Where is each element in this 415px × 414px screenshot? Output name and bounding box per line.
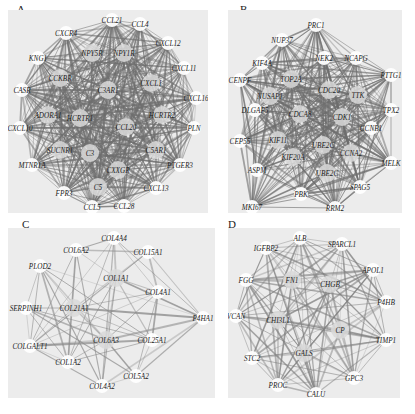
node-label: C5AR1 [146,147,167,155]
node-ttk: TTK [349,86,367,104]
node-label: PBK [293,191,309,199]
node-label: PTGER3 [166,162,193,170]
node-label: COL25A1 [137,337,166,345]
node-label: TOP2A [280,76,302,84]
node-label: CEP55 [230,138,251,146]
edges [236,238,386,394]
node-label: CDCA8 [289,111,312,119]
node-label: CASR [13,87,31,95]
node-fn1: FN1 [283,271,301,289]
node-label: STC2 [244,355,260,363]
node-label: CP [335,327,345,335]
node-label: NPY1R [112,50,135,58]
node-label: CCL21 [102,17,123,25]
node-label: TIMP1 [376,337,396,345]
node-label: CDK1 [333,114,351,122]
node-label: COL1A2 [55,359,81,367]
node-label: PLN [186,125,201,133]
node-label: IGFBP2 [253,245,279,253]
node-label: SPARCL1 [328,241,356,249]
node-label: SPAG5 [350,184,371,192]
node-label: CXCL1 [140,80,162,88]
node-label: COL1A1 [103,275,129,283]
network-panel-d: ALBSPARCL1IGFBP2APOL1FGGFN1CHGBP4HBVCANC… [228,228,400,398]
node-label: NPY5R [80,50,103,58]
node-label: MTNR1A [17,162,46,170]
node-label: PTTG1 [379,72,401,80]
node-label: P4HB [376,299,395,307]
node-label: COL21A1 [59,305,88,313]
node-label: VCAN [228,313,246,321]
node-label: C3 [86,150,95,158]
node-label: SERPINH1 [10,305,43,313]
node-c3: C3 [81,144,99,162]
node-label: CCL20 [116,124,137,132]
node-label: ALB [293,235,307,243]
edge [292,280,316,394]
node-col6a2: COL6A2 [63,243,89,257]
node-label: CXCL13 [143,185,169,193]
node-label: CXCL11 [172,65,197,73]
node-label: CDC20 [318,87,340,95]
node-label: TTK [352,92,366,100]
edges [240,25,391,208]
node-label: MELK [380,160,401,168]
node-label: NUSAP1 [256,93,283,101]
node-label: CENPF [229,77,252,85]
network-graph-c: COL4A4COL6A2COL15A1PLOD2COL1A1COL4A1SERP… [8,228,215,398]
node-label: COL4A2 [89,383,115,391]
node-label: CHGB [320,281,340,289]
edge [102,238,114,386]
node-label: CHI3L1 [266,317,290,325]
node-label: CXCL10 [8,125,33,133]
node-label: P4HA1 [191,315,213,323]
node-col21a1: COL21A1 [59,299,88,317]
node-label: PRC1 [306,22,324,30]
network-graph-d: ALBSPARCL1IGFBP2APOL1FGGFN1CHGBP4HBVCANC… [228,228,400,398]
node-label: PLOD2 [28,263,52,271]
node-label: COL6A3 [93,337,119,345]
node-label: CALU [307,391,326,399]
edge [152,292,158,340]
node-label: COL6A2 [63,247,89,255]
node-label: HCRTR2 [148,112,176,120]
node-label: COLGALT1 [12,343,47,351]
node-cxcl11: CXCL11 [172,61,197,75]
node-gals: GALS [295,344,313,362]
node-label: FPR3 [55,190,73,198]
node-label: NCAPG [343,55,368,63]
node-label: CCL5 [83,204,101,212]
node-col4a4: COL4A4 [101,231,127,245]
node-alb: ALB [293,231,307,245]
node-label: CXCL16 [183,95,208,103]
node-label: CCNB1 [360,125,382,133]
node-col4a1: COL4A1 [145,285,171,299]
edge [136,318,203,376]
network-panel-a: CCL21CCL4CXCR4CXCL12KNG1CXCL11CASRCXCL16… [8,10,208,213]
node-label: MKI67 [241,204,263,212]
node-label: GPC3 [345,375,363,383]
node-label: NEK2 [314,55,333,63]
node-label: CCL28 [114,203,135,211]
node-label: COL4A1 [145,289,171,297]
node-col15a1: COL15A1 [133,245,162,259]
node-label: KNG1 [28,55,47,63]
edge [354,340,386,378]
network-graph-a: CCL21CCL4CXCR4CXCL12KNG1CXCL11CASRCXCL16… [8,10,208,213]
network-panel-b: PRC1NUP37NEK2NCAPGKIF4APTTG1CENPFTOP2ANU… [228,10,402,213]
node-label: CXXGR [106,167,130,175]
node-label: C3AR1 [98,87,119,95]
node-c5: C5 [89,178,107,196]
node-label: C5 [94,184,103,192]
node-label: PROC [268,382,288,390]
edge [252,207,335,208]
node-label: CCKBR [48,75,72,83]
node-label: CXCR4 [55,30,77,38]
node-label: COL15A1 [133,249,162,257]
node-label: UBE2C [312,142,335,150]
node-label: RRM2 [325,205,345,213]
node-label: FGG [238,277,255,285]
node-label: CXCL12 [155,40,181,48]
node-label: ASPM [247,167,267,175]
node-col6a3: COL6A3 [93,331,119,349]
